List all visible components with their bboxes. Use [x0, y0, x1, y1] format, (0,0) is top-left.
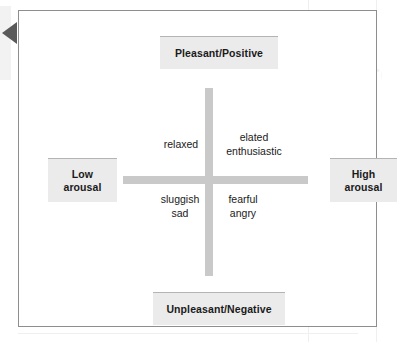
diagram-frame: Pleasant/Positive Unpleasant/Negative Lo… [18, 10, 377, 327]
quadrant-label-lower-right: fearful angry [219, 193, 267, 220]
quadrant-label-upper-right: elated enthusiastic [218, 131, 290, 158]
anchor-label-low-arousal: Low arousal [48, 158, 117, 202]
anchor-label-high-arousal: High arousal [330, 158, 397, 202]
scan-artifact-line-bottom [18, 333, 358, 334]
anchor-label-unpleasant-negative: Unpleasant/Negative [153, 292, 285, 325]
left-triangle-marker-icon [2, 22, 17, 44]
arousal-axis-bar [123, 176, 308, 184]
quadrant-label-upper-left: relaxed [159, 138, 203, 152]
quadrant-label-lower-left: sluggish sad [155, 193, 205, 220]
anchor-label-pleasant-positive: Pleasant/Positive [160, 36, 278, 69]
